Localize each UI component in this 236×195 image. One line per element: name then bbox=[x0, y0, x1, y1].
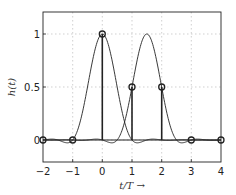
y-axis-label: h(t) bbox=[6, 78, 17, 96]
svg-text:2: 2 bbox=[159, 166, 165, 177]
svg-text:1: 1 bbox=[34, 29, 40, 40]
svg-text:3: 3 bbox=[188, 166, 194, 177]
svg-text:0.5: 0.5 bbox=[24, 82, 40, 93]
svg-text:1: 1 bbox=[129, 166, 135, 177]
x-tick-labels: −2 −1 0 1 2 3 4 bbox=[36, 166, 225, 177]
svg-text:0: 0 bbox=[99, 166, 105, 177]
svg-text:4: 4 bbox=[218, 166, 224, 177]
svg-text:0: 0 bbox=[34, 135, 40, 146]
x-axis-label: t/T → bbox=[119, 180, 145, 191]
svg-text:−1: −1 bbox=[65, 166, 80, 177]
y-tick-labels: 0 0.5 1 bbox=[24, 29, 40, 146]
svg-text:−2: −2 bbox=[36, 166, 51, 177]
chart: −2 −1 0 1 2 3 4 0 0.5 1 t/T → h(t) bbox=[0, 0, 236, 195]
